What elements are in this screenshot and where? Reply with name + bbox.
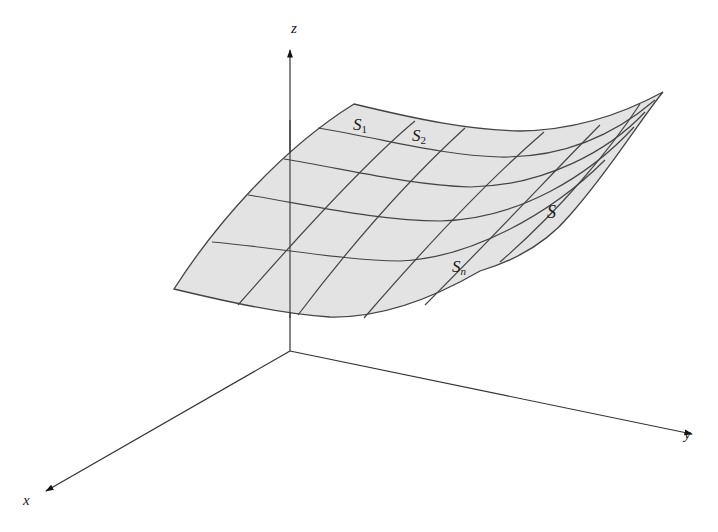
- surface-partition-diagram: z y x S S1 S2 Sn: [0, 0, 718, 532]
- z-axis-label: z: [290, 20, 297, 36]
- y-axis-label: y: [682, 426, 691, 442]
- patch-s2-subscript: 2: [421, 134, 427, 146]
- patch-sn-subscript: n: [461, 265, 467, 277]
- x-axis-label: x: [22, 492, 30, 508]
- patch-s1-subscript: 1: [362, 123, 368, 135]
- surface-label: S: [547, 202, 556, 222]
- y-axis: [290, 351, 692, 434]
- x-axis: [46, 351, 290, 491]
